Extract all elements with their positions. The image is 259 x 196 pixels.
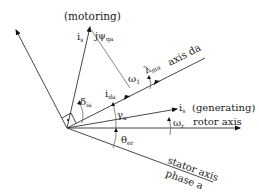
- right-angle-dot: [67, 119, 69, 121]
- delta-ia-label: δia: [80, 96, 92, 108]
- axis-da-line: [67, 58, 205, 128]
- generating-label: (generating): [192, 102, 255, 113]
- gamma-arc: [113, 104, 116, 128]
- q-axis-line: [16, 30, 67, 128]
- omega1-label: ω1: [128, 73, 140, 85]
- is-generating-label: is: [179, 102, 185, 114]
- rotor-axis-label: rotor axis: [193, 116, 242, 127]
- ida-arrowhead: [124, 95, 130, 100]
- omega-r-arrowhead: [167, 117, 171, 121]
- jpsi-qa-label: jψqa: [94, 30, 114, 43]
- ida-label: ida: [105, 88, 116, 100]
- omega-r-arc: [169, 119, 171, 135]
- is-motoring-label: is: [77, 31, 83, 43]
- gamma-a-label: γa: [117, 109, 127, 121]
- lambda-arrowhead: [154, 80, 160, 85]
- theta-er-label: θer: [121, 134, 134, 146]
- lambda-ma-label: λma: [142, 59, 162, 77]
- axis-da-label: axis da: [166, 42, 203, 68]
- omega-r-label: ωr: [173, 117, 184, 129]
- theta-arrowhead: [114, 128, 118, 132]
- omega1-arrowhead: [147, 75, 151, 79]
- phasor-diagram: (motoring) is jψqa ω1 λma axis da δia id…: [0, 0, 259, 196]
- motoring-label: (motoring): [64, 10, 121, 22]
